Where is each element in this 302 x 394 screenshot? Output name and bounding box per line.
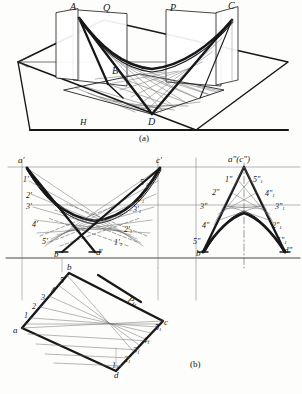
label-subscript: 1: [284, 240, 286, 245]
caption-a: (a): [139, 134, 149, 143]
label-subscript: 1: [147, 340, 149, 345]
label-d-prime: d': [96, 248, 102, 257]
label-side-gen-1-sub: 1"1: [277, 237, 287, 246]
label-plan-gen-5-sub: 51: [155, 324, 161, 333]
label-subscript: 1: [146, 182, 148, 187]
label-plan-gen-3: 3: [41, 294, 45, 302]
label-a-vertex: A: [70, 2, 76, 12]
figure-page: A Q P C B D H (a) a' c' b' d' 1' 2' 3' 4…: [0, 0, 302, 394]
label-subscript: 1: [139, 209, 141, 214]
plane-a: [56, 9, 78, 80]
label-front-gen-4-sub: 4'1: [136, 196, 144, 205]
label-subscript: 1: [137, 350, 139, 355]
label-subscript: 1: [272, 193, 274, 198]
label-a-prime: a': [18, 156, 24, 165]
label-subscript: 1: [120, 242, 122, 247]
label-plan-gen-4: 4: [51, 287, 55, 295]
label-side-gen-4-sub: 4"1: [265, 190, 275, 199]
label-subscript: 1: [128, 359, 130, 364]
label-b-prime: b': [54, 250, 60, 259]
label-front-gen-2: 2': [26, 192, 32, 200]
label-subscript: 1: [279, 225, 281, 230]
label-front-gen-4: 4': [32, 221, 38, 229]
label-p-plane: P: [170, 3, 176, 13]
label-plan-d: d: [114, 371, 119, 380]
label-plan-gen-2-sub: 21: [124, 356, 130, 365]
label-front-gen-5: 5': [42, 238, 48, 246]
label-side-gen-5-sub: 5"1: [253, 176, 263, 185]
label-h-plane: H: [80, 118, 87, 127]
label-front-gen-5-sub: 5'1: [140, 179, 148, 188]
label-d-double-prime: d": [284, 246, 292, 255]
label-front-gen-2-sub: 2'1: [124, 226, 132, 235]
caption-b: (b): [190, 360, 201, 369]
label-plan-c: c: [164, 318, 168, 327]
label-front-gen-3-sub: 3'1: [133, 206, 141, 215]
label-side-gen-2-sub: 2"1: [272, 222, 282, 231]
label-side-gen-4: 4": [202, 222, 209, 230]
label-q-plane: Q: [103, 3, 110, 13]
label-plan-gen-2: 2: [32, 303, 36, 311]
label-subscript: 1: [282, 206, 284, 211]
plane-p: [166, 10, 221, 86]
label-plan-b: b: [67, 263, 72, 272]
plan-rulings: [22, 275, 163, 366]
label-subscript: 1: [159, 327, 161, 332]
label-b-double-prime: b": [196, 249, 204, 258]
label-plan-gen-4-sub: 41: [143, 337, 149, 346]
label-plan-gen-1: 1: [24, 312, 28, 320]
label-plan-gen-5: 5: [60, 277, 64, 285]
pictorial-view-group: [18, 7, 288, 130]
h-plane-left-edge: [18, 62, 30, 130]
label-a-c-double-prime: a"(c"): [228, 155, 250, 164]
label-b-vertex: B: [112, 66, 118, 76]
technical-drawing-canvas: [0, 0, 302, 394]
label-plan-gen-3-sub: 31: [133, 347, 139, 356]
plane-c: [216, 7, 238, 85]
label-side-gen-1: 1": [225, 176, 232, 184]
label-side-gen-3: 3": [200, 203, 207, 211]
label-side-gen-3-sub: 3"1: [275, 203, 285, 212]
label-plan-gen-1-sub: 11: [112, 362, 118, 371]
label-subscript: 1: [142, 199, 144, 204]
label-side-gen-5: 5": [193, 238, 200, 246]
plan-view-group: [22, 273, 163, 371]
label-subscript: 1: [116, 365, 118, 370]
label-front-gen-3: 3': [26, 203, 32, 211]
label-side-gen-2: 2": [212, 189, 219, 197]
label-front-gen-1: 1': [23, 176, 29, 184]
label-plan-a: a: [13, 326, 18, 335]
label-c-vertex: C: [228, 1, 235, 11]
label-d-vertex: D: [148, 117, 155, 127]
label-front-gen-1-sub: 1'1: [114, 239, 122, 248]
label-c-prime: c': [156, 156, 162, 165]
label-subscript: 1: [130, 229, 132, 234]
label-subscript: 1: [260, 179, 262, 184]
